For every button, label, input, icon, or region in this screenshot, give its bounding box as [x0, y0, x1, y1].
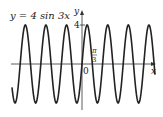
- sine-graph: y = 4 sin 3x y x 4 0 π 3: [0, 0, 163, 117]
- equation-label: y = 4 sin 3x: [9, 10, 70, 21]
- origin-label: 0: [83, 66, 89, 76]
- y-axis-arrow-icon: [80, 10, 84, 15]
- pi-over-3-label: π 3: [91, 47, 97, 64]
- y-axis-label: y: [73, 6, 80, 16]
- pi-numerator: π: [91, 47, 97, 55]
- three-denominator: 3: [92, 56, 96, 64]
- x-axis-label: x: [151, 66, 156, 76]
- y-tick-label: 4: [74, 20, 80, 30]
